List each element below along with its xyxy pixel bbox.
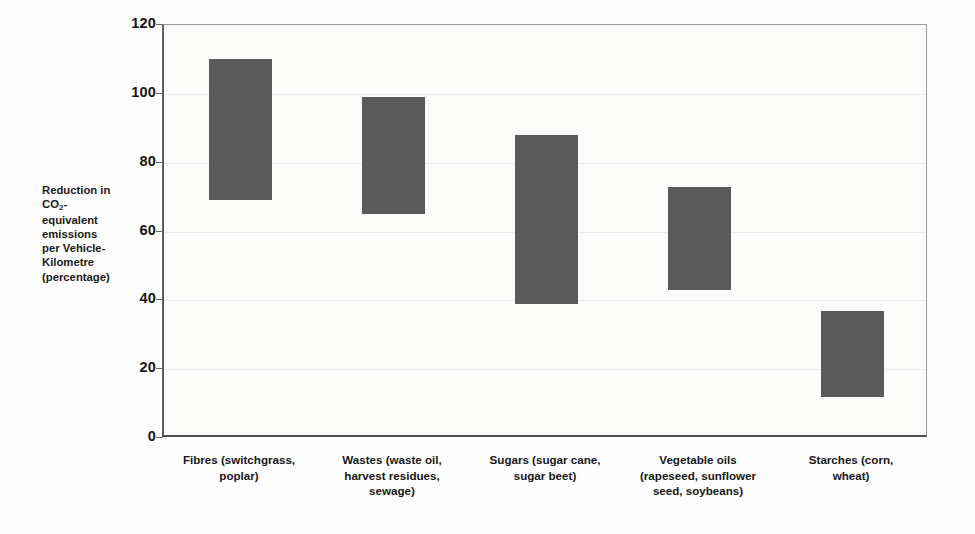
y-axis-tick-100: 100 [110,84,156,100]
x-axis-category-label: Starches (corn,wheat) [753,452,949,483]
range-bar [362,97,425,214]
y-axis-tick-120: 120 [110,15,156,31]
x-axis-category-label-line: wheat) [753,468,949,484]
x-axis-category-label-line: sewage) [294,483,490,499]
gridline-100 [164,94,926,95]
range-bar [209,59,272,200]
chart-page: Reduction in CO2- equivalent emissions p… [0,0,975,534]
plot-area [162,24,927,437]
y-axis-tick-80: 80 [110,153,156,169]
y-axis-tick-40: 40 [110,290,156,306]
range-bar [668,187,731,290]
y-axis-tick-20: 20 [110,359,156,375]
y-axis-tick-60: 60 [110,222,156,238]
range-bar [515,135,578,304]
range-bar [821,311,884,397]
gridline-20 [164,369,926,370]
x-axis-category-labels: Fibres (switchgrass,poplar)Wastes (waste… [0,452,975,532]
x-axis-category-label-line: seed, soybeans) [600,483,796,499]
y-axis-tick-0: 0 [110,428,156,444]
co2-subscript: 2 [59,203,63,212]
x-axis-category-label-line: Starches (corn, [753,452,949,468]
y-axis-tickmark-0 [156,437,163,438]
